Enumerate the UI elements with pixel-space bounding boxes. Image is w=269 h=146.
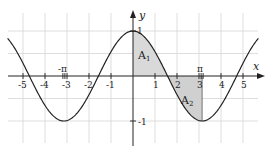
pi-label: π xyxy=(197,64,203,74)
x-tick-label: 1 xyxy=(153,80,159,90)
y-axis-label: y xyxy=(138,9,146,22)
y-tick-label-minus-1: -1 xyxy=(138,117,147,127)
x-axis-arrow-icon xyxy=(257,73,265,79)
x-tick-label: -1 xyxy=(106,80,115,90)
x-tick-label: 5 xyxy=(241,80,247,90)
cosine-area-chart: -5-4-3-2-112345 x y 1 -1 -π π A1 A2 xyxy=(0,0,269,146)
x-tick-label: 3 xyxy=(197,80,203,90)
x-tick-label: 2 xyxy=(175,80,181,90)
x-tick-label: -2 xyxy=(84,80,93,90)
neg-pi-label: -π xyxy=(58,64,67,74)
y-axis-arrow-icon xyxy=(130,10,136,18)
y-tick-label-1: 1 xyxy=(137,26,143,36)
x-tick-label: -3 xyxy=(62,80,71,90)
x-tick-label: -4 xyxy=(40,80,49,90)
x-axis-label: x xyxy=(253,60,260,73)
x-tick-label: -5 xyxy=(18,80,27,90)
x-tick-label: 4 xyxy=(219,80,225,90)
